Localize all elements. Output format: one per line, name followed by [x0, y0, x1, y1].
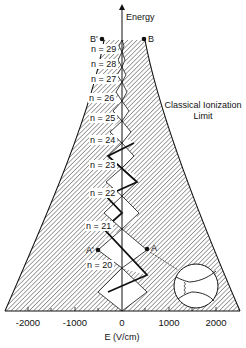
level-label: n = 22: [90, 188, 115, 198]
x-axis-label: E (V/cm): [105, 332, 140, 342]
point-b-prime-label: B': [90, 34, 98, 44]
level-label: n = 25: [90, 113, 115, 123]
avoided-crossing-inset: [174, 264, 218, 308]
level-label: n = 26: [89, 93, 114, 103]
point-a-prime: [96, 248, 101, 253]
point-a-prime-label: A': [86, 245, 94, 255]
level-label: n = 20: [87, 260, 112, 270]
x-tick-label: 2000: [205, 317, 226, 328]
point-b-prime: [100, 37, 105, 42]
x-tick-label: 1000: [158, 317, 179, 328]
limit-label: Limit: [193, 111, 213, 121]
point-a-label: A: [151, 243, 157, 253]
level-label: n = 24: [90, 135, 115, 145]
level-label: n = 27: [91, 74, 116, 84]
point-b: [142, 37, 147, 42]
level-label: n = 23: [90, 160, 115, 170]
limit-label: Classical Ionization: [164, 100, 241, 110]
level-label: n = 21: [86, 221, 111, 231]
energy-axis-label: Energy: [126, 12, 155, 22]
x-tick-label: -1000: [63, 317, 87, 328]
point-a: [145, 247, 150, 252]
level-label: n = 29: [91, 44, 116, 54]
level-label: n = 28: [91, 59, 116, 69]
x-tick-label: 0: [119, 317, 124, 328]
point-b-label: B: [148, 34, 154, 44]
x-tick-label: -2000: [16, 317, 40, 328]
stark-ionization-diagram: -2000 -1000 0 1000 2000 E (V/cm) Energy …: [0, 0, 246, 348]
